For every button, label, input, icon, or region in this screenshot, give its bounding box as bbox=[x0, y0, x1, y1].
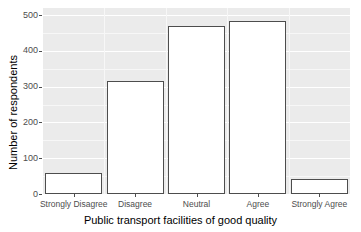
y-axis-tick-label: 100 bbox=[18, 154, 38, 163]
y-axis-tick-mark bbox=[39, 158, 42, 159]
x-axis-tick-mark bbox=[319, 194, 320, 197]
x-axis-tick-label: Strongly Disagree bbox=[40, 199, 108, 210]
y-axis-tick-label: 200 bbox=[18, 118, 38, 127]
y-axis-tick-labels: 0100200300400500 bbox=[18, 0, 38, 232]
y-axis-tick-mark bbox=[39, 15, 42, 16]
gridline-minor-vertical bbox=[227, 8, 228, 194]
gridline-major bbox=[43, 15, 350, 16]
y-axis-tick-label: 0 bbox=[18, 190, 38, 199]
gridline-minor-vertical bbox=[166, 8, 167, 194]
y-axis-tick-label: 300 bbox=[18, 82, 38, 91]
y-axis-tick-mark bbox=[39, 51, 42, 52]
x-axis-tick-mark bbox=[197, 194, 198, 197]
y-axis-tick-label: 500 bbox=[18, 11, 38, 20]
bar-agree bbox=[229, 21, 286, 194]
bar-strongly-disagree bbox=[45, 173, 102, 194]
plot-panel bbox=[43, 8, 350, 194]
x-axis-tick-marks bbox=[43, 194, 350, 198]
bar-strongly-agree bbox=[291, 179, 348, 194]
x-axis-tick-mark bbox=[135, 194, 136, 197]
x-axis-tick-label: Strongly Agree bbox=[291, 199, 347, 210]
x-axis-tick-label: Disagree bbox=[118, 199, 152, 210]
gridline-minor-vertical bbox=[289, 8, 290, 194]
y-axis-tick-mark bbox=[39, 87, 42, 88]
x-axis-tick-mark bbox=[258, 194, 259, 197]
y-axis-tick-mark bbox=[39, 194, 42, 195]
x-axis-tick-label: Agree bbox=[247, 199, 270, 210]
bar-chart: Number of respondents 0100200300400500 S… bbox=[0, 0, 361, 232]
x-axis-tick-labels: Strongly DisagreeDisagreeNeutralAgreeStr… bbox=[43, 199, 350, 211]
bar-disagree bbox=[107, 81, 164, 194]
y-axis-tick-mark bbox=[39, 122, 42, 123]
x-axis-tick-label: Neutral bbox=[183, 199, 210, 210]
gridline-minor-vertical bbox=[104, 8, 105, 194]
y-axis-tick-label: 400 bbox=[18, 46, 38, 55]
x-axis-title: Public transport facilities of good qual… bbox=[0, 213, 361, 227]
x-axis-tick-mark bbox=[74, 194, 75, 197]
bar-neutral bbox=[168, 26, 225, 194]
